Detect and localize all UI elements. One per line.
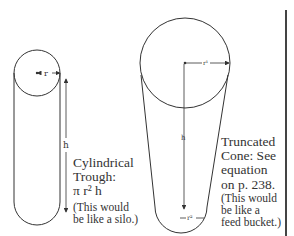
cone-title-line4: on p. 238. — [221, 178, 281, 192]
cone-shape: r¹ h r² — [140, 18, 230, 233]
cylinder-radius-label: r — [44, 69, 48, 78]
cone-note-line2: be like a — [221, 204, 281, 216]
cone-body — [141, 75, 228, 233]
cone-height-label: h — [181, 134, 186, 142]
cone-top-radius-label: r¹ — [203, 59, 208, 66]
cylinder-height-label: h — [63, 140, 69, 150]
cylinder-shape: r h — [14, 50, 69, 225]
cylinder-note-line2: be like a silo.) — [73, 213, 138, 225]
cone-title-line3: equation — [221, 163, 281, 177]
cone-caption: Truncated Cone: See equation on p. 238. … — [221, 135, 281, 228]
cone-title-line1: Truncated — [221, 135, 281, 149]
cylinder-formula: π r² h — [73, 184, 138, 198]
cone-note-line3: feed bucket.) — [221, 216, 281, 228]
cylinder-title-line2: Trough: — [73, 170, 138, 184]
cone-bottom-radius-label: r² — [187, 214, 193, 222]
cylinder-title-line1: Cylindrical — [73, 156, 138, 170]
cylinder-note-line1: (This would — [73, 201, 138, 213]
cone-title-line2: Cone: See — [221, 149, 281, 163]
cylinder-caption: Cylindrical Trough: π r² h (This would b… — [73, 156, 138, 225]
cone-note-line1: (This would — [221, 192, 281, 204]
